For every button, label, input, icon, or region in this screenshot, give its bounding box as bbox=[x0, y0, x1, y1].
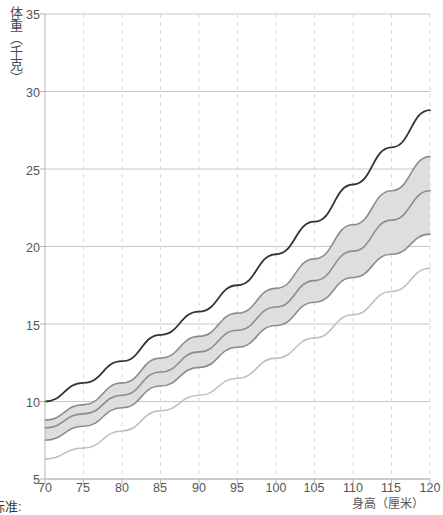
plot-area bbox=[0, 0, 443, 515]
growth-chart: 体重（千克） 身高（厘米） 标准: 5 10 15 20 25 30 35 70… bbox=[0, 0, 443, 515]
